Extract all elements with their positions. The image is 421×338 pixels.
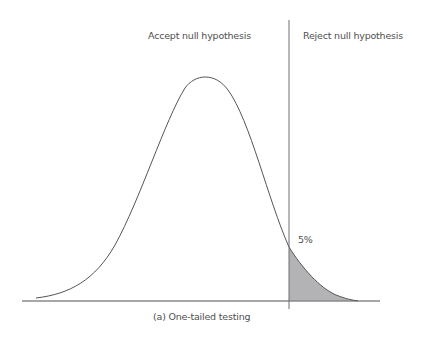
reject-region-label: Reject null hypothesis: [303, 30, 403, 41]
accept-region-label: Accept null hypothesis: [148, 30, 251, 41]
rejection-region-shading: [289, 247, 358, 301]
figure-caption: (a) One-tailed testing: [153, 311, 250, 322]
tail-percent-label: 5%: [298, 234, 313, 245]
distribution-chart: [0, 0, 421, 338]
normal-curve: [36, 77, 358, 301]
